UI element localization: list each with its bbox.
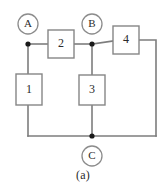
- component-box-3-label: 3: [89, 82, 95, 96]
- wire-box4-right-down: [139, 40, 156, 136]
- node-c-dot: [89, 133, 94, 138]
- component-group: 1 2 3 4: [16, 26, 139, 105]
- component-box-4-label: 4: [123, 32, 129, 46]
- wire-b-to-box4: [92, 41, 113, 44]
- terminal-a[interactable]: A: [18, 14, 38, 34]
- figure-caption: (a): [0, 168, 166, 183]
- circuit-figure: 1 2 3 4 A: [0, 0, 166, 188]
- component-box-1[interactable]: 1: [16, 74, 42, 105]
- node-a-dot: [25, 41, 30, 46]
- terminal-b[interactable]: B: [82, 14, 102, 34]
- terminal-c[interactable]: C: [82, 146, 102, 166]
- component-box-4[interactable]: 4: [113, 26, 139, 54]
- component-box-2-label: 2: [58, 36, 64, 50]
- component-box-3[interactable]: 3: [79, 75, 105, 105]
- circuit-diagram-canvas: 1 2 3 4 A: [0, 0, 166, 188]
- terminal-a-label: A: [24, 17, 32, 29]
- terminal-c-label: C: [88, 149, 95, 161]
- component-box-1-label: 1: [26, 82, 32, 96]
- node-b-dot: [89, 41, 94, 46]
- terminal-b-label: B: [88, 17, 95, 29]
- component-box-2[interactable]: 2: [48, 30, 74, 58]
